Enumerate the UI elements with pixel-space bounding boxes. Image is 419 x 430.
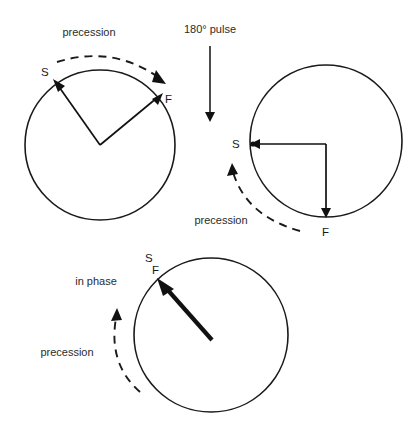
pulse-label: 180° pulse [184,23,236,35]
spin-echo-figure: precession S F 180° pulse [0,0,419,430]
panel-after-pulse: S F precession [194,65,402,238]
precession-label-bottom: precession [40,346,93,358]
precession-label-top: precession [62,26,115,38]
rephased-slow-label: S [145,252,153,264]
panel-rephased: S F in phase precession [40,252,288,412]
rephased-fast-label: F [152,264,159,276]
dephasing-slow-label: S [41,66,49,78]
pulse-arrow-group: 180° pulse [184,23,236,122]
after-pulse-slow-label: S [232,138,240,150]
rephased-circle-outline [134,258,288,412]
dephasing-fast-vector [100,97,158,145]
after-pulse-slow-tip-dot [250,141,255,146]
precession-arrowhead-top [152,70,166,84]
in-phase-label: in phase [75,275,117,287]
after-pulse-fast-label: F [322,226,329,238]
spin-echo-diagram-canvas: precession S F 180° pulse [0,0,419,430]
precession-arrowhead-bottom [111,308,122,321]
dephasing-fast-label: F [165,93,172,105]
precession-arc-top [57,56,158,77]
dephasing-slow-vector [57,84,100,145]
rephased-merged-vector [166,288,212,340]
pulse-arrowhead [205,112,215,122]
panel-dephasing: precession S F [25,26,175,220]
precession-label-middle: precession [194,214,247,226]
precession-arrowhead-middle [227,163,238,176]
